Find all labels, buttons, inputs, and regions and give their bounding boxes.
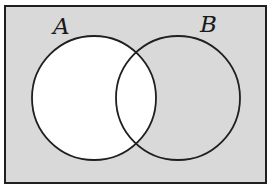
venn-diagram: A B bbox=[0, 0, 273, 188]
set-b-label: B bbox=[199, 11, 217, 37]
set-a-label: A bbox=[51, 13, 70, 39]
